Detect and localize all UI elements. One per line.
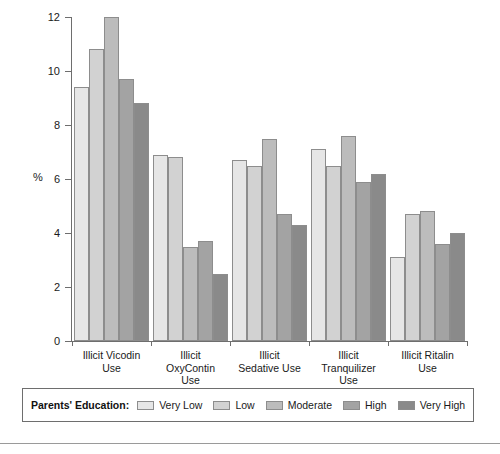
footer-divider	[0, 443, 500, 444]
legend-label: Very Low	[159, 399, 202, 411]
x-axis-tick	[151, 341, 152, 346]
y-axis-tick	[65, 341, 71, 342]
legend-swatch	[266, 401, 283, 410]
legend-swatch	[137, 401, 154, 410]
y-axis-tick	[65, 287, 71, 288]
legend-item: Very Low	[137, 399, 202, 411]
bar	[89, 49, 104, 341]
category-label-line: Use	[297, 374, 401, 387]
x-axis-tick	[230, 341, 231, 346]
legend-item: High	[343, 399, 387, 411]
bar	[341, 136, 356, 341]
bar-chart-figure: % 024681012 Illicit VicodinUseIllicitOxy…	[0, 0, 500, 454]
bar	[371, 174, 386, 341]
legend-title: Parents' Education:	[31, 399, 129, 411]
bar	[435, 244, 450, 341]
y-axis-tick-label: 0	[22, 336, 60, 346]
bar	[183, 247, 198, 342]
bar	[311, 149, 326, 341]
y-axis-tick-label: 12	[22, 12, 60, 22]
x-axis-line	[71, 341, 467, 342]
y-axis-tick	[65, 71, 71, 72]
bar	[74, 87, 89, 341]
bar	[198, 241, 213, 341]
y-axis-tick	[65, 125, 71, 126]
y-axis-tick-label: 8	[22, 120, 60, 130]
category-label-line: Illicit Ritalin	[376, 349, 480, 362]
bar	[134, 103, 149, 341]
bar	[390, 257, 405, 341]
bar	[213, 274, 228, 342]
category-label: Illicit RitalinUse	[376, 349, 480, 374]
legend-label: Low	[235, 399, 254, 411]
legend-label: Very High	[420, 399, 466, 411]
x-axis-tick	[72, 341, 73, 346]
y-axis-tick-label: 4	[22, 228, 60, 238]
x-axis-tick	[388, 341, 389, 346]
y-axis-tick-label: 6	[22, 174, 60, 184]
y-axis-tick-label: 10	[22, 66, 60, 76]
legend-label: Moderate	[288, 399, 332, 411]
bar	[405, 214, 420, 341]
legend-swatch	[398, 401, 415, 410]
legend-items: Very LowLowModerateHighVery High	[137, 399, 476, 411]
bar	[104, 17, 119, 341]
bar	[277, 214, 292, 341]
bar	[262, 139, 277, 342]
legend-item: Low	[213, 399, 254, 411]
bar	[119, 79, 134, 341]
bar	[356, 182, 371, 341]
bar	[326, 166, 341, 342]
y-axis-line	[71, 17, 72, 342]
category-label-line: Use	[139, 374, 243, 387]
legend-item: Moderate	[266, 399, 332, 411]
bar	[450, 233, 465, 341]
legend-swatch	[213, 401, 230, 410]
bar	[153, 155, 168, 341]
bar	[168, 157, 183, 341]
x-axis-tick	[309, 341, 310, 346]
legend-label: High	[365, 399, 387, 411]
y-axis-tick	[65, 17, 71, 18]
y-axis-tick	[65, 179, 71, 180]
bar	[292, 225, 307, 341]
legend-swatch	[343, 401, 360, 410]
legend-item: Very High	[398, 399, 466, 411]
bar	[420, 211, 435, 341]
x-axis-tick	[467, 341, 468, 346]
bar	[247, 166, 262, 342]
legend: Parents' Education: Very LowLowModerateH…	[22, 388, 474, 422]
y-axis-tick	[65, 233, 71, 234]
category-label-line: Use	[376, 362, 480, 375]
y-axis-tick-label: 2	[22, 282, 60, 292]
bar	[232, 160, 247, 341]
